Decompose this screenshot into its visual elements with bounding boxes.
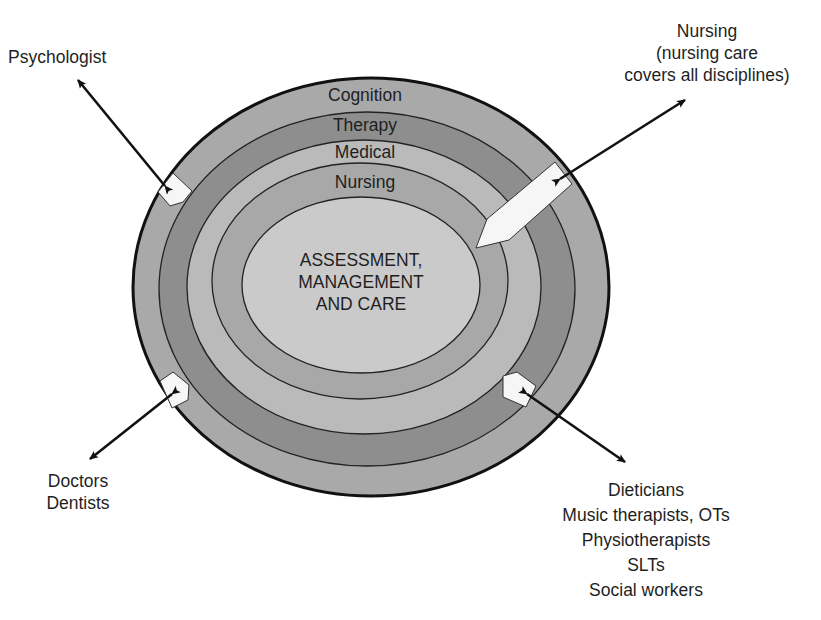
nursing-arrow-icon	[560, 100, 685, 179]
callout-doctors: Doctors Dentists	[28, 470, 128, 514]
center-label-line-3: AND CARE	[261, 293, 461, 315]
callout-therapists-line-1: Dieticians	[536, 478, 756, 503]
callout-therapists-line-4: SLTs	[536, 553, 756, 578]
callout-doctors-line-2: Dentists	[28, 492, 128, 514]
callout-nursing-line-1: Nursing	[595, 20, 819, 42]
ring-label-medical: Medical	[300, 141, 430, 163]
callout-doctors-line-1: Doctors	[28, 470, 128, 492]
callout-nursing-line-2: (nursing care	[595, 42, 819, 64]
callout-nursing: Nursing (nursing care covers all discipl…	[595, 20, 819, 86]
callout-therapists-line-2: Music therapists, OTs	[536, 503, 756, 528]
ring-label-cognition: Cognition	[300, 84, 430, 106]
callout-nursing-line-3: covers all disciplines)	[595, 64, 819, 86]
callout-psychologist: Psychologist	[8, 46, 132, 68]
callout-therapists: Dieticians Music therapists, OTs Physiot…	[536, 478, 756, 603]
callout-therapists-line-5: Social workers	[536, 578, 756, 603]
ring-label-therapy: Therapy	[300, 114, 430, 136]
center-label-line-1: ASSESSMENT,	[261, 249, 461, 271]
doctors-arrow-icon	[90, 394, 172, 459]
callout-psychologist-line-1: Psychologist	[8, 46, 132, 68]
psychologist-arrow-icon	[78, 80, 165, 186]
center-label: ASSESSMENT, MANAGEMENT AND CARE	[261, 249, 461, 315]
callout-therapists-line-3: Physiotherapists	[536, 528, 756, 553]
center-label-line-2: MANAGEMENT	[261, 271, 461, 293]
ring-label-nursing: Nursing	[300, 171, 430, 193]
